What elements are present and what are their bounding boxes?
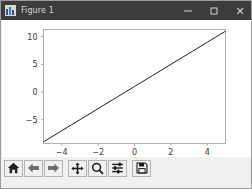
y-tick-label: 5 xyxy=(32,60,37,69)
zoom-button[interactable] xyxy=(88,160,107,177)
forward-button[interactable] xyxy=(44,160,63,177)
home-icon xyxy=(7,162,20,174)
x-tick-label: −4 xyxy=(56,148,68,157)
matplotlib-icon xyxy=(5,5,16,16)
arrow-left-icon xyxy=(27,162,40,174)
move-icon xyxy=(71,162,84,175)
x-tick-label: −2 xyxy=(92,148,104,157)
figure-canvas[interactable]: −4−2024 −50510 xyxy=(2,20,251,157)
x-tick-label: 0 xyxy=(132,148,137,157)
sliders-icon xyxy=(111,162,124,174)
y-tick-label: 10 xyxy=(27,33,37,42)
home-button[interactable] xyxy=(4,160,23,177)
status-bar xyxy=(2,178,251,189)
navigation-toolbar xyxy=(2,158,251,178)
figure-window: Figure 1 ✕ −4−2024 −50510 xyxy=(0,0,252,189)
figure-background xyxy=(2,20,251,157)
save-button[interactable] xyxy=(132,160,151,177)
title-bar: Figure 1 ✕ xyxy=(1,1,252,20)
line-plot: −4−2024 −50510 xyxy=(2,20,251,157)
minimize-icon xyxy=(184,10,192,11)
window-title: Figure 1 xyxy=(21,1,175,20)
y-tick-label: 0 xyxy=(32,88,37,97)
arrow-right-icon xyxy=(47,162,60,174)
pan-button[interactable] xyxy=(68,160,87,177)
maximize-button[interactable] xyxy=(201,1,227,20)
maximize-icon xyxy=(211,7,218,14)
floppy-disk-icon xyxy=(136,162,148,174)
configure-subplots-button[interactable] xyxy=(108,160,127,177)
magnifier-icon xyxy=(91,162,104,175)
close-button[interactable]: ✕ xyxy=(227,1,252,20)
x-tick-label: 4 xyxy=(205,148,210,157)
back-button[interactable] xyxy=(24,160,43,177)
y-tick-label: −5 xyxy=(26,116,38,125)
x-tick-label: 2 xyxy=(168,148,173,157)
minimize-button[interactable] xyxy=(175,1,201,20)
close-icon: ✕ xyxy=(235,5,244,16)
